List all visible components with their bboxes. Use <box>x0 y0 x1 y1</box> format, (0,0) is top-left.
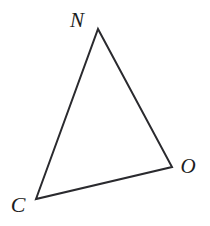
vertex-label-n: N <box>70 10 84 31</box>
figure-background <box>0 0 210 226</box>
geometry-figure: N O C <box>0 0 210 226</box>
triangle-diagram <box>0 0 210 226</box>
vertex-label-o: O <box>180 156 195 177</box>
vertex-label-c: C <box>11 194 26 216</box>
